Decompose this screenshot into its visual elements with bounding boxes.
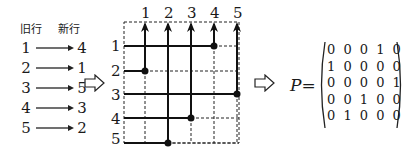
matrix-row: 0 1 0 0 0 <box>327 108 403 125</box>
matrix-row: 0 0 0 1 0 <box>327 42 403 59</box>
matrix-row: 0 0 1 0 0 <box>327 92 403 109</box>
matrix-label: P= <box>290 75 316 95</box>
matrix-row: 0 0 0 0 1 <box>327 75 403 92</box>
permutation-matrix: 0 0 0 1 0 1 0 0 0 0 0 0 0 0 1 0 0 1 0 0 … <box>327 42 403 125</box>
matrix-row: 1 0 0 0 0 <box>327 59 403 76</box>
hollow-right-arrow-icon <box>254 74 276 92</box>
